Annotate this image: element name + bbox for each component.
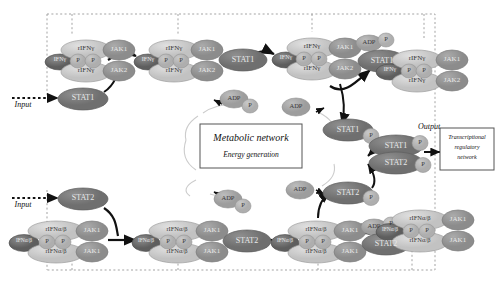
input-label-bottom: Input: [6, 200, 40, 209]
top-free-stat1[interactable]: [58, 88, 108, 110]
metabolic-network-box: [200, 124, 302, 168]
bottom-adp-node-1[interactable]: [214, 190, 251, 213]
bottom-complex-1[interactable]: [9, 221, 108, 263]
metabolic-network-subtitle: Energy generation: [200, 150, 302, 159]
bottom-adp-node-2[interactable]: [286, 181, 314, 199]
output-label: Output: [411, 122, 447, 131]
metabolic-network-title: Metabolic network: [200, 132, 302, 143]
released-stat2-phospho[interactable]: [323, 182, 379, 206]
top-adp-node-1[interactable]: [220, 90, 258, 113]
released-stat1-phospho[interactable]: [323, 119, 379, 144]
pathway-diagram-canvas: IFNγ rIFNγ rIFNγ P P JAK1 JAK2 STAT1 IFN…: [0, 0, 497, 296]
top-complex-1[interactable]: [45, 40, 135, 82]
top-complex-2[interactable]: [134, 40, 267, 82]
top-adp-node-2[interactable]: [282, 98, 310, 116]
bottom-complex-2[interactable]: [132, 221, 271, 263]
input-label-top: Input: [6, 100, 40, 109]
transcriptional-network-line1: Transcriptional: [440, 134, 494, 140]
stat1-stat2-dimer[interactable]: [369, 135, 431, 174]
transcriptional-network-line3: network: [440, 154, 494, 160]
bottom-free-stat2[interactable]: [58, 188, 108, 210]
transcriptional-network-line2: regulatory: [440, 144, 494, 150]
